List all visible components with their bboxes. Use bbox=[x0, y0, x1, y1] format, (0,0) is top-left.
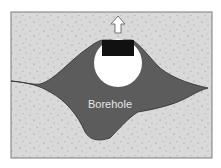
black-block bbox=[102, 40, 134, 56]
borehole-diagram: Borehole bbox=[0, 0, 221, 168]
borehole-label: Borehole bbox=[88, 98, 132, 110]
